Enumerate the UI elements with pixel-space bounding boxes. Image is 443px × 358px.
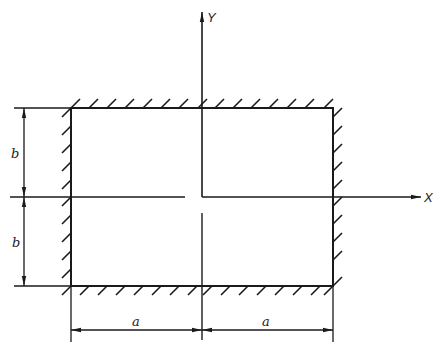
dim-label-a-right: a xyxy=(262,314,270,329)
y-axis-label: Y xyxy=(207,10,217,25)
dim-label-a-left: a xyxy=(132,314,140,329)
hatch-left-icon xyxy=(62,108,71,278)
plate-diagram: Y X b b a a xyxy=(0,0,443,358)
dim-label-b-lower: b xyxy=(12,235,20,250)
dim-label-b-upper: b xyxy=(11,146,19,161)
hatch-bottom-icon xyxy=(62,286,333,295)
x-axis-label: X xyxy=(423,190,434,205)
